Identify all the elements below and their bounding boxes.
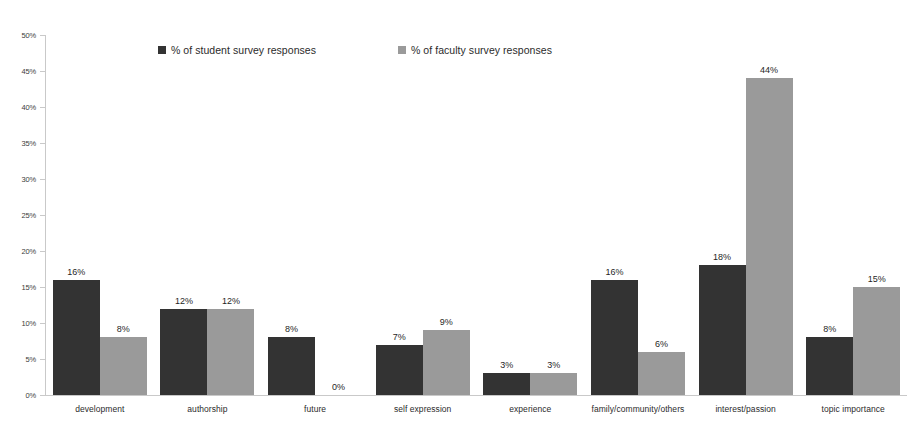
bar-student[interactable]: 16%	[591, 280, 638, 395]
bar-value-label: 16%	[605, 267, 623, 277]
bar-group: 7%9%	[376, 35, 470, 395]
x-axis-label: authorship	[154, 404, 262, 414]
bar-student[interactable]: 12%	[160, 309, 207, 395]
bar-faculty[interactable]: 8%	[100, 337, 147, 395]
bar-value-label: 8%	[285, 324, 298, 334]
bar-faculty[interactable]: 3%	[530, 373, 577, 395]
y-axis-tick-label: 10%	[8, 319, 36, 328]
bar-value-label: 6%	[655, 339, 668, 349]
bar-faculty[interactable]: 15%	[853, 287, 900, 395]
bar-value-label: 18%	[713, 252, 731, 262]
bar-value-label: 0%	[332, 382, 345, 392]
x-axis-label: experience	[477, 404, 585, 414]
bar-value-label: 9%	[440, 317, 453, 327]
bar-faculty[interactable]: 6%	[638, 352, 685, 395]
y-axis-tick	[40, 215, 45, 216]
bar-group: 8%15%	[806, 35, 900, 395]
bar-faculty[interactable]: 9%	[423, 330, 470, 395]
bar-group: 16%8%	[53, 35, 147, 395]
bar-chart: % of student survey responses % of facul…	[0, 0, 914, 430]
y-axis-tick	[40, 251, 45, 252]
bar-value-label: 15%	[868, 274, 886, 284]
bar-value-label: 44%	[760, 65, 778, 75]
bar-value-label: 8%	[823, 324, 836, 334]
x-axis-label: topic importance	[799, 404, 907, 414]
x-axis-label: future	[261, 404, 369, 414]
y-axis-tick	[40, 359, 45, 360]
y-axis-tick-label: 0%	[8, 391, 36, 400]
x-axis-label: development	[46, 404, 154, 414]
bar-value-label: 7%	[393, 332, 406, 342]
plot-area: 16%8%12%12%8%0%7%9%3%3%16%6%18%44%8%15%	[46, 35, 907, 395]
y-axis-tick-label: 20%	[8, 247, 36, 256]
y-axis-tick-label: 5%	[8, 355, 36, 364]
bar-student[interactable]: 8%	[268, 337, 315, 395]
x-axis-label: self expression	[369, 404, 477, 414]
bar-value-label: 3%	[547, 360, 560, 370]
y-axis-tick-label: 40%	[8, 103, 36, 112]
y-axis-tick	[40, 287, 45, 288]
y-axis-tick	[40, 179, 45, 180]
bar-value-label: 16%	[67, 267, 85, 277]
x-axis-label: family/community/others	[584, 404, 692, 414]
y-axis-tick-label: 15%	[8, 283, 36, 292]
bar-group: 16%6%	[591, 35, 685, 395]
y-axis-tick-label: 30%	[8, 175, 36, 184]
y-axis-tick-label: 35%	[8, 139, 36, 148]
bar-student[interactable]: 18%	[699, 265, 746, 395]
bar-faculty[interactable]: 44%	[746, 78, 793, 395]
bar-value-label: 3%	[500, 360, 513, 370]
y-axis-tick	[40, 395, 45, 396]
y-axis-tick-label: 50%	[8, 31, 36, 40]
y-axis-tick	[40, 107, 45, 108]
bar-student[interactable]: 7%	[376, 345, 423, 395]
bar-value-label: 8%	[117, 324, 130, 334]
bar-student[interactable]: 16%	[53, 280, 100, 395]
bar-student[interactable]: 3%	[483, 373, 530, 395]
y-axis-tick	[40, 71, 45, 72]
x-axis-label: interest/passion	[692, 404, 800, 414]
y-axis-tick	[40, 143, 45, 144]
y-axis-tick	[40, 35, 45, 36]
bar-faculty[interactable]: 12%	[207, 309, 254, 395]
bar-group: 18%44%	[699, 35, 793, 395]
bar-value-label: 12%	[222, 296, 240, 306]
bar-group: 8%0%	[268, 35, 362, 395]
bar-student[interactable]: 8%	[806, 337, 853, 395]
y-axis-tick-label: 45%	[8, 67, 36, 76]
x-axis-line	[45, 395, 907, 396]
y-axis-tick	[40, 323, 45, 324]
bar-group: 12%12%	[160, 35, 254, 395]
bar-group: 3%3%	[483, 35, 577, 395]
bar-value-label: 12%	[175, 296, 193, 306]
y-axis-tick-label: 25%	[8, 211, 36, 220]
